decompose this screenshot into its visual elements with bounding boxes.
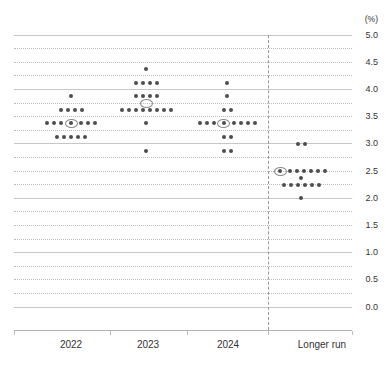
x-axis-tick bbox=[187, 331, 188, 335]
projection-dot bbox=[59, 108, 63, 112]
projection-dot bbox=[246, 121, 250, 125]
dotted-gridline bbox=[14, 239, 352, 240]
solid-gridline bbox=[14, 35, 352, 36]
y-axis-tick-label: 0.0 bbox=[354, 303, 378, 312]
projection-dot bbox=[282, 183, 286, 187]
dotted-gridline bbox=[14, 116, 352, 117]
longer-run-separator bbox=[268, 35, 269, 330]
projection-dot bbox=[76, 135, 80, 139]
projection-dot bbox=[155, 81, 159, 85]
x-axis-label: 2023 bbox=[137, 339, 159, 351]
projection-dot bbox=[127, 108, 131, 112]
dotted-gridline bbox=[14, 211, 352, 212]
projection-dot bbox=[309, 169, 313, 173]
projection-dot bbox=[302, 169, 306, 173]
projection-dot bbox=[59, 121, 63, 125]
dot-plot-chart: (%) 5.04.54.03.53.02.52.01.51.00.50.0202… bbox=[0, 0, 389, 369]
projection-dot bbox=[299, 176, 303, 180]
projection-dot bbox=[317, 183, 321, 187]
dotted-gridline bbox=[14, 184, 352, 185]
y-axis-tick-label: 1.0 bbox=[354, 248, 378, 257]
projection-dot bbox=[148, 108, 152, 112]
projection-dot bbox=[162, 108, 166, 112]
y-axis-tick-label: 4.0 bbox=[354, 85, 378, 94]
projection-dot bbox=[144, 149, 148, 153]
projection-dot bbox=[62, 135, 66, 139]
projection-dot bbox=[120, 108, 124, 112]
projection-dot bbox=[303, 142, 307, 146]
y-axis-tick-label: 3.5 bbox=[354, 112, 378, 121]
projection-dot bbox=[93, 121, 97, 125]
projection-dot bbox=[296, 142, 300, 146]
projection-dot bbox=[148, 81, 152, 85]
projection-dot bbox=[52, 121, 56, 125]
dotted-gridline bbox=[14, 48, 352, 49]
projection-dot bbox=[205, 121, 209, 125]
projection-dot bbox=[253, 121, 257, 125]
projection-dot bbox=[232, 121, 236, 125]
plot-area: 5.04.54.03.53.02.52.01.51.00.50.02022202… bbox=[0, 0, 389, 369]
projection-dot bbox=[229, 149, 233, 153]
x-axis-tick bbox=[110, 331, 111, 335]
median-marker bbox=[217, 119, 230, 128]
y-axis-tick-label: 2.5 bbox=[354, 167, 378, 176]
y-axis-tick-label: 5.0 bbox=[354, 31, 378, 40]
y-axis-tick-label: 3.0 bbox=[354, 139, 378, 148]
x-axis-label: 2022 bbox=[60, 339, 82, 351]
projection-dot bbox=[225, 94, 229, 98]
x-axis-label: Longer run bbox=[298, 339, 346, 351]
projection-dot bbox=[222, 108, 226, 112]
x-axis-tick bbox=[352, 331, 353, 335]
dotted-gridline bbox=[14, 103, 352, 104]
dotted-gridline bbox=[14, 130, 352, 131]
projection-dot bbox=[229, 135, 233, 139]
median-marker bbox=[65, 119, 78, 128]
projection-dot bbox=[86, 121, 90, 125]
dotted-gridline bbox=[14, 75, 352, 76]
projection-dot bbox=[73, 108, 77, 112]
projection-dot bbox=[141, 81, 145, 85]
projection-dot bbox=[299, 196, 303, 200]
dotted-gridline bbox=[14, 266, 352, 267]
dotted-gridline bbox=[14, 225, 352, 226]
projection-dot bbox=[212, 121, 216, 125]
projection-dot bbox=[155, 94, 159, 98]
x-axis-line bbox=[14, 330, 352, 331]
median-marker bbox=[274, 167, 287, 176]
projection-dot bbox=[134, 108, 138, 112]
projection-dot bbox=[296, 183, 300, 187]
projection-dot bbox=[66, 108, 70, 112]
projection-dot bbox=[80, 108, 84, 112]
projection-dot bbox=[310, 183, 314, 187]
dotted-gridline bbox=[14, 157, 352, 158]
projection-dot bbox=[289, 183, 293, 187]
solid-gridline bbox=[14, 252, 352, 253]
solid-gridline bbox=[14, 89, 352, 90]
dotted-gridline bbox=[14, 62, 352, 63]
projection-dot bbox=[303, 183, 307, 187]
projection-dot bbox=[225, 81, 229, 85]
projection-dot bbox=[316, 169, 320, 173]
projection-dot bbox=[229, 108, 233, 112]
projection-dot bbox=[79, 121, 83, 125]
median-marker bbox=[140, 99, 153, 108]
y-axis-tick-label: 2.0 bbox=[354, 194, 378, 203]
projection-dot bbox=[155, 108, 159, 112]
solid-gridline bbox=[14, 307, 352, 308]
projection-dot bbox=[144, 121, 148, 125]
projection-dot bbox=[222, 149, 226, 153]
dotted-gridline bbox=[14, 279, 352, 280]
dotted-gridline bbox=[14, 293, 352, 294]
projection-dot bbox=[222, 135, 226, 139]
y-axis-tick-label: 4.5 bbox=[354, 58, 378, 67]
projection-dot bbox=[69, 135, 73, 139]
projection-dot bbox=[141, 94, 145, 98]
projection-dot bbox=[198, 121, 202, 125]
projection-dot bbox=[134, 81, 138, 85]
projection-dot bbox=[144, 67, 148, 71]
projection-dot bbox=[295, 169, 299, 173]
projection-dot bbox=[288, 169, 292, 173]
projection-dot bbox=[69, 94, 73, 98]
projection-dot bbox=[134, 94, 138, 98]
solid-gridline bbox=[14, 143, 352, 144]
